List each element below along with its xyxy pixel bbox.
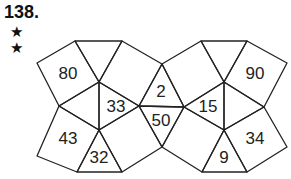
label-15: 15 (199, 97, 218, 116)
label-9: 9 (219, 148, 228, 167)
label-33: 33 (107, 97, 126, 116)
label-32: 32 (90, 148, 109, 167)
label-34: 34 (246, 129, 265, 148)
label-80: 80 (59, 64, 78, 83)
label-2: 2 (156, 82, 165, 101)
label-43: 43 (59, 129, 78, 148)
polygon-puzzle-diagram: 80 33 43 32 2 50 15 90 34 9 (0, 0, 291, 179)
label-90: 90 (246, 64, 265, 83)
label-50: 50 (152, 111, 171, 130)
